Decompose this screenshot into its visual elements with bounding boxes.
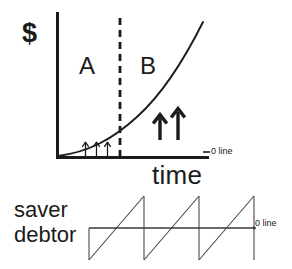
region-b-label: B	[140, 54, 156, 78]
large-arrow-group	[153, 109, 185, 141]
zero-line-label-top: 0 line	[211, 147, 233, 156]
small-arrow-up-icon	[105, 142, 111, 156]
growth-curve	[58, 22, 203, 156]
diagram-canvas: $ A B time 0 line saver debtor 0 line	[0, 0, 292, 269]
region-a-label: A	[79, 54, 95, 78]
small-arrow-up-icon	[94, 142, 100, 156]
saver-label: saver	[14, 199, 68, 221]
x-axis-label: time	[152, 162, 202, 188]
y-axis-label: $	[22, 20, 37, 47]
large-arrow-up-icon	[171, 109, 185, 141]
large-arrow-up-icon	[153, 115, 167, 141]
debtor-label: debtor	[14, 224, 76, 246]
zero-line-label-bottom: 0 line	[255, 219, 277, 228]
